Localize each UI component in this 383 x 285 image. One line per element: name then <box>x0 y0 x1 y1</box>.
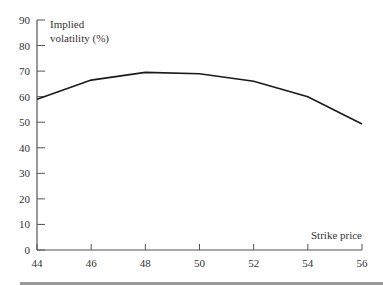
y-tick: 10 <box>19 218 45 230</box>
x-tick-label: 54 <box>302 257 314 269</box>
x-tick: 56 <box>357 244 369 269</box>
x-tick-label: 44 <box>32 257 44 269</box>
y-tick: 70 <box>19 65 45 77</box>
y-tick-label: 60 <box>19 91 31 103</box>
y-axis-ticks: 0102030405060708090 <box>19 14 45 256</box>
x-tick-label: 46 <box>86 257 98 269</box>
x-tick: 52 <box>248 244 259 269</box>
x-tick: 50 <box>194 244 206 269</box>
y-tick-label: 0 <box>25 244 31 256</box>
x-tick-label: 48 <box>140 257 152 269</box>
axes <box>37 20 362 250</box>
x-tick: 44 <box>32 244 44 269</box>
y-tick: 80 <box>19 40 45 52</box>
y-tick: 0 <box>25 244 46 256</box>
y-tick: 50 <box>19 116 45 128</box>
y-tick-label: 30 <box>19 167 31 179</box>
y-tick: 30 <box>19 167 45 179</box>
y-tick-label: 40 <box>19 142 31 154</box>
x-tick-label: 56 <box>357 257 369 269</box>
y-tick: 40 <box>19 142 45 154</box>
y-axis-title-line1: Implied <box>50 18 85 30</box>
volatility-smile-line <box>37 72 362 124</box>
implied-volatility-chart: 0102030405060708090 44464850525456 Impli… <box>0 0 383 285</box>
y-axis-title-line2: volatility (%) <box>50 32 109 45</box>
y-tick-label: 70 <box>19 65 31 77</box>
y-tick-label: 80 <box>19 40 31 52</box>
x-tick: 48 <box>140 244 152 269</box>
x-tick-label: 50 <box>194 257 206 269</box>
x-tick: 46 <box>86 244 98 269</box>
x-axis-ticks: 44464850525456 <box>32 244 369 269</box>
x-tick: 54 <box>302 244 314 269</box>
y-tick: 60 <box>19 91 45 103</box>
y-tick-label: 20 <box>19 193 31 205</box>
x-tick-label: 52 <box>248 257 259 269</box>
x-axis-title: Strike price <box>311 229 362 241</box>
y-tick: 20 <box>19 193 45 205</box>
y-tick-label: 90 <box>19 14 31 26</box>
y-tick-label: 10 <box>19 218 31 230</box>
y-tick-label: 50 <box>19 116 31 128</box>
y-tick: 90 <box>19 14 45 26</box>
